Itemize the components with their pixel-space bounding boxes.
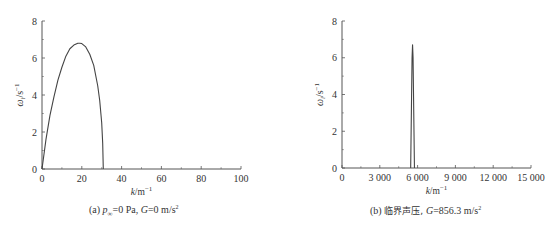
x-tick-label: 6 000 — [406, 172, 429, 183]
x-tick-label: 40 — [117, 173, 127, 184]
x-tick-label: 15 000 — [517, 172, 545, 183]
caption-b: (b) 临界声压, G=856.3 m/s2 — [370, 204, 481, 217]
chart-panel-a: 02468020406080100k/m−1ωi/s−1 — [0, 0, 280, 236]
x-tick-label: 100 — [234, 173, 249, 184]
y-tick-label: 8 — [332, 16, 337, 27]
y-tick-label: 0 — [332, 163, 337, 174]
x-tick-label: 60 — [156, 173, 166, 184]
chart-a-plot: 02468020406080100k/m−1ωi/s−1 — [0, 0, 280, 236]
y-tick-label: 6 — [332, 52, 337, 63]
y-tick-label: 4 — [332, 89, 337, 100]
y-tick-label: 8 — [32, 16, 37, 27]
y-axis-label: ωi/s−1 — [13, 83, 27, 107]
data-series-line — [411, 45, 415, 168]
y-tick-label: 6 — [32, 53, 37, 64]
x-axis-label: k/m−1 — [426, 184, 448, 196]
x-tick-label: 12 000 — [479, 172, 507, 183]
x-tick-label: 80 — [196, 173, 206, 184]
chart-panel-b: 0246803 0006 0009 00012 00015 000k/m−1ωi… — [280, 0, 558, 236]
y-tick-label: 2 — [32, 127, 37, 138]
data-series-line — [42, 43, 103, 169]
y-tick-label: 4 — [32, 90, 37, 101]
x-tick-label: 20 — [77, 173, 87, 184]
x-tick-label: 9 000 — [444, 172, 467, 183]
x-tick-label: 0 — [40, 173, 45, 184]
x-tick-label: 0 — [340, 172, 345, 183]
x-axis-label: k/m−1 — [131, 185, 153, 197]
y-tick-label: 0 — [32, 164, 37, 175]
x-tick-label: 3 000 — [369, 172, 392, 183]
caption-a: (a) p∞=0 Pa, G=0 m/s2 — [89, 204, 179, 218]
chart-b-plot: 0246803 0006 0009 00012 00015 000k/m−1ωi… — [280, 0, 558, 236]
y-axis-label: ωi/s−1 — [313, 82, 327, 106]
y-tick-label: 2 — [332, 126, 337, 137]
